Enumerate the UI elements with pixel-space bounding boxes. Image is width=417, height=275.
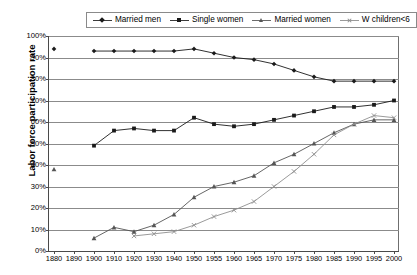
square-marker-icon: [170, 16, 189, 25]
y-tick-label: 80%: [31, 75, 46, 83]
x-tick-label: 1980: [306, 255, 322, 262]
data-point: [252, 199, 256, 203]
data-point: [152, 129, 156, 133]
x-tick-label: 1985: [326, 255, 342, 262]
data-point: [312, 75, 317, 80]
x-tick-label: 1960: [226, 255, 242, 262]
series-w-children-6: [132, 113, 396, 238]
data-point: [312, 141, 317, 145]
data-point: [192, 195, 197, 199]
series-line: [134, 116, 394, 236]
data-point: [312, 152, 316, 156]
x-tick-label: 2000: [386, 255, 402, 262]
x-tick-label: 1880: [46, 255, 62, 262]
series-married-women: [52, 117, 397, 240]
x-tick-label: 1920: [126, 255, 142, 262]
x-tick-mark: [54, 251, 55, 254]
x-tick-mark: [274, 251, 275, 254]
x-tick-label: 1995: [366, 255, 382, 262]
y-tick-label: 100%: [27, 32, 46, 40]
x-tick-mark: [214, 251, 215, 254]
x-tick-label: 1970: [266, 255, 282, 262]
plot-area: 0%10%20%30%40%50%60%70%80%90%100% 188018…: [48, 36, 399, 252]
data-point: [252, 122, 256, 126]
data-point: [392, 79, 397, 84]
data-point: [272, 118, 276, 122]
x-tick-mark: [234, 251, 235, 254]
legend-item-married-women: Married women: [252, 15, 330, 25]
data-point: [132, 127, 136, 131]
data-point: [312, 109, 316, 113]
data-point: [292, 68, 297, 73]
x-tick-mark: [154, 251, 155, 254]
x-tick-mark: [254, 251, 255, 254]
data-point: [332, 79, 337, 84]
data-point: [112, 49, 117, 54]
y-tick-label: 0%: [35, 247, 46, 255]
data-point: [52, 47, 57, 52]
y-tick-label: 50%: [31, 140, 46, 148]
data-point: [92, 49, 97, 54]
data-point: [152, 49, 157, 54]
data-point: [132, 49, 137, 54]
data-point: [352, 105, 356, 109]
data-point: [272, 184, 276, 188]
x-tick-label: 1940: [166, 255, 182, 262]
data-point: [252, 57, 257, 62]
data-point: [192, 47, 197, 52]
y-tick-label: 40%: [31, 161, 46, 169]
x-tick-mark: [374, 251, 375, 254]
x-tick-mark: [334, 251, 335, 254]
x-tick-mark: [314, 251, 315, 254]
x-tick-label: 1965: [246, 255, 262, 262]
series-line: [94, 120, 394, 238]
legend-label: Married men: [115, 15, 161, 25]
triangle-marker-icon: [252, 16, 271, 25]
data-point: [272, 62, 277, 67]
x-tick-label: 1950: [186, 255, 202, 262]
series-married-men: [52, 47, 397, 84]
series-single-women: [92, 99, 396, 148]
y-tick-mark: [46, 251, 49, 252]
y-tick-label: 70%: [31, 97, 46, 105]
data-point: [332, 105, 336, 109]
legend-item-single-women: Single women: [170, 15, 243, 25]
x-tick-label: 1975: [286, 255, 302, 262]
y-axis-title: Labor force participation rate: [26, 26, 37, 196]
data-point: [252, 173, 257, 177]
data-point: [92, 236, 97, 240]
y-tick-label: 10%: [31, 226, 46, 234]
x-tick-mark: [114, 251, 115, 254]
x-tick-label: 1930: [146, 255, 162, 262]
data-point: [232, 124, 236, 128]
data-point: [272, 160, 277, 164]
y-tick-label: 60%: [31, 118, 46, 126]
x-tick-label: 1900: [86, 255, 102, 262]
y-tick-label: 20%: [31, 204, 46, 212]
legend-label: Single women: [192, 15, 243, 25]
data-point: [112, 225, 117, 229]
data-point: [232, 208, 236, 212]
x-tick-label: 1955: [206, 255, 222, 262]
data-point: [372, 79, 377, 84]
series-line: [94, 49, 394, 81]
legend-label: Married women: [274, 15, 330, 25]
x-tick-label: 1910: [106, 255, 122, 262]
x-tick-mark: [174, 251, 175, 254]
x-tick-label: 1890: [66, 255, 82, 262]
data-point: [372, 103, 376, 107]
data-point: [212, 51, 217, 56]
data-point: [152, 223, 157, 227]
data-point: [52, 167, 57, 171]
data-point: [352, 79, 357, 84]
data-point: [192, 223, 196, 227]
data-point: [292, 114, 296, 118]
x-marker-icon: [340, 16, 359, 25]
x-tick-mark: [354, 251, 355, 254]
data-point: [212, 214, 216, 218]
data-point: [212, 122, 216, 126]
legend-item-married-men: Married men: [93, 15, 161, 25]
legend-label: W children<6: [362, 15, 410, 25]
x-tick-label: 1990: [346, 255, 362, 262]
data-point: [232, 55, 237, 60]
